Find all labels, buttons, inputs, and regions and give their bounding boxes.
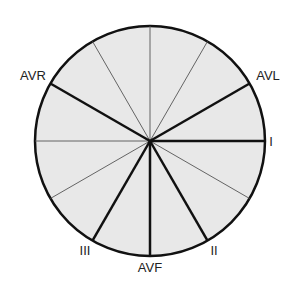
lead-label-avl: AVL: [256, 68, 280, 83]
lead-label-i: I: [269, 134, 273, 149]
lead-label-iii: III: [80, 243, 91, 258]
hexaxial-diagram: I AVL II AVF III AVR: [0, 0, 292, 282]
lead-label-ii: II: [210, 243, 217, 258]
lead-label-avr: AVR: [20, 68, 46, 83]
lead-label-avf: AVF: [138, 260, 162, 275]
